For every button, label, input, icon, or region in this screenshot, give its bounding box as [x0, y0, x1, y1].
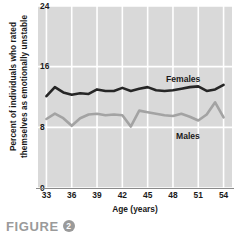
x-axis-title: Age (years): [38, 204, 232, 214]
series-label-females: Females: [166, 74, 200, 84]
x-tick-label: 36: [67, 190, 76, 200]
figure-caption-word: FIGURE: [6, 220, 59, 232]
x-tick-label: 54: [219, 190, 228, 200]
y-tick-label: 8: [40, 122, 56, 132]
x-tick-label: 33: [42, 190, 51, 200]
x-tick-label: 39: [92, 190, 101, 200]
series-line-females: [46, 85, 223, 96]
x-tick-label: 48: [168, 190, 177, 200]
y-tick-label: 16: [40, 61, 56, 71]
x-tick-labels: 3336394245485154: [38, 190, 232, 203]
figure-caption: FIGURE 2: [6, 220, 75, 232]
y-axis-title: Percent of individuals who rated themsel…: [9, 0, 30, 177]
series-line-males: [46, 102, 223, 126]
series-label-males: Males: [176, 131, 200, 141]
series-lines: [46, 85, 223, 127]
plot-svg: [38, 6, 232, 188]
gridlines-horizontal: [38, 6, 232, 188]
gridlines-vertical: [46, 6, 223, 188]
x-tick-label: 42: [118, 190, 127, 200]
x-tick-label: 45: [143, 190, 152, 200]
figure-root: Percent of individuals who rated themsel…: [0, 0, 240, 232]
plot-area: 081624: [38, 6, 232, 188]
y-tick-label: 24: [40, 1, 56, 11]
x-tick-label: 51: [194, 190, 203, 200]
figure-caption-number: 2: [63, 220, 75, 232]
